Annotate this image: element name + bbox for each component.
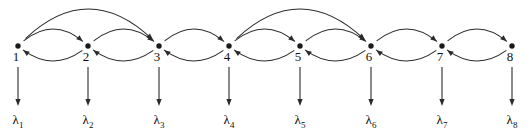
forward-edge-6-to-7 — [377, 29, 437, 41]
backward-edge-3-to-2-arrowhead — [93, 50, 100, 56]
node-label-6: 6 — [366, 49, 373, 64]
rate-label-subscript-8: 8 — [513, 120, 518, 130]
forward-edge-6-to-7-arrowhead — [430, 35, 436, 41]
rate-label-subscript-5: 5 — [301, 120, 306, 130]
backward-edge-7-to-6-arrowhead — [376, 50, 383, 56]
forward-edge-3-to-4-arrowhead — [217, 35, 223, 41]
rate-label-subscript-2: 2 — [89, 120, 94, 130]
rate-label-layer: λ1λ2λ3λ4λ5λ6λ7λ8 — [13, 112, 518, 130]
node-dot-4[interactable] — [226, 43, 231, 48]
diagram-canvas: 12345678 λ1λ2λ3λ4λ5λ6λ7λ8 — [0, 0, 528, 134]
rate-label-8: λ8 — [507, 112, 518, 130]
backward-edge-5-to-4 — [234, 50, 294, 61]
forward-edge-layer — [24, 29, 507, 41]
backward-edge-8-to-7 — [447, 50, 506, 61]
node-label-layer: 12345678 — [13, 49, 514, 64]
node-dot-3[interactable] — [156, 43, 161, 48]
rate-label-subscript-3: 3 — [160, 120, 165, 130]
node-dot-7[interactable] — [439, 43, 444, 48]
backward-edge-8-to-7-arrowhead — [447, 50, 454, 56]
rate-arrow-head-7 — [439, 99, 444, 106]
rate-label-4: λ4 — [224, 112, 235, 130]
node-label-4: 4 — [224, 49, 231, 64]
backward-edge-3-to-2 — [93, 50, 153, 61]
node-dot-5[interactable] — [297, 43, 302, 48]
node-dot-8[interactable] — [509, 43, 514, 48]
backward-edge-4-to-3-arrowhead — [164, 50, 171, 56]
rate-arrow-head-8 — [509, 99, 514, 106]
forward-edge-3-to-4 — [165, 29, 224, 41]
skip-edge-1-to-3 — [26, 9, 153, 40]
forward-edge-4-to-5 — [235, 29, 295, 41]
rate-arrow-head-3 — [156, 99, 161, 106]
rate-arrow-head-2 — [85, 99, 90, 106]
rate-label-1: λ1 — [13, 112, 24, 130]
rate-label-7: λ7 — [437, 112, 448, 130]
forward-edge-5-to-6 — [306, 29, 366, 41]
node-label-2: 2 — [83, 49, 90, 64]
rate-label-6: λ6 — [366, 112, 377, 130]
rate-label-subscript-7: 7 — [443, 120, 448, 130]
state-transition-diagram: 12345678 λ1λ2λ3λ4λ5λ6λ7λ8 — [0, 0, 528, 134]
skip-edge-4-to-6 — [237, 9, 365, 40]
backward-edge-7-to-6 — [376, 50, 436, 61]
forward-edge-4-to-5-arrowhead — [288, 35, 294, 41]
rate-label-subscript-1: 1 — [19, 120, 24, 130]
rate-label-subscript-6: 6 — [372, 120, 377, 130]
backward-edge-5-to-4-arrowhead — [234, 50, 241, 56]
backward-edge-6-to-5 — [305, 50, 365, 61]
node-label-3: 3 — [154, 49, 161, 64]
node-dot-2[interactable] — [85, 43, 90, 48]
backward-edge-layer — [23, 50, 506, 61]
rate-label-subscript-4: 4 — [230, 120, 235, 130]
backward-edge-2-to-1 — [23, 50, 82, 61]
node-dot-1[interactable] — [15, 43, 20, 48]
backward-edge-6-to-5-arrowhead — [305, 50, 312, 56]
rate-arrow-layer — [15, 67, 514, 106]
forward-edge-7-to-8-arrowhead — [500, 35, 506, 41]
forward-edge-7-to-8 — [448, 29, 507, 41]
forward-edge-1-to-2 — [24, 29, 83, 41]
rate-arrow-head-5 — [297, 99, 302, 106]
forward-edge-2-to-3 — [94, 29, 154, 41]
node-label-1: 1 — [13, 49, 20, 64]
node-label-7: 7 — [437, 49, 444, 64]
rate-arrow-head-4 — [226, 99, 231, 106]
node-dot-6[interactable] — [368, 43, 373, 48]
rate-label-2: λ2 — [83, 112, 94, 130]
forward-edge-1-to-2-arrowhead — [76, 35, 82, 41]
node-label-5: 5 — [295, 49, 302, 64]
rate-label-5: λ5 — [295, 112, 306, 130]
node-label-8: 8 — [507, 49, 514, 64]
node-layer — [15, 43, 514, 48]
backward-edge-4-to-3 — [164, 50, 223, 61]
rate-arrow-head-6 — [368, 99, 373, 106]
backward-edge-2-to-1-arrowhead — [23, 50, 30, 56]
rate-label-3: λ3 — [154, 112, 165, 130]
rate-arrow-head-1 — [15, 99, 20, 106]
